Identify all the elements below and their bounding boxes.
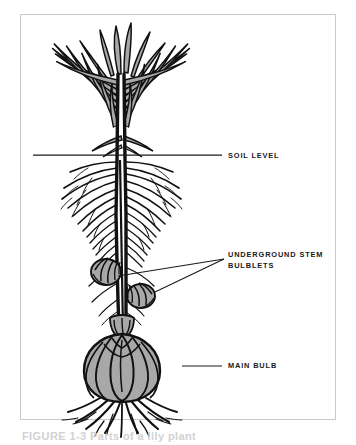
label-bulblets-line2: BULBLETS	[228, 261, 274, 270]
label-soil-level: SOIL LEVEL	[228, 151, 279, 162]
main-bulb	[84, 334, 160, 402]
lily-diagram	[0, 0, 356, 445]
label-main-bulb: MAIN BULB	[228, 361, 277, 372]
bulblet-lower	[127, 283, 155, 308]
leaves	[45, 23, 197, 157]
figure-caption: FIGURE 1-3 Parts of a lily plant	[22, 430, 322, 443]
label-underground-stem-bulblets: UNDERGROUND STEM BULBLETS	[228, 250, 323, 271]
label-underground-stem-line1: UNDERGROUND STEM	[228, 250, 323, 259]
stem	[116, 74, 126, 330]
bulblet-upper	[91, 258, 121, 285]
